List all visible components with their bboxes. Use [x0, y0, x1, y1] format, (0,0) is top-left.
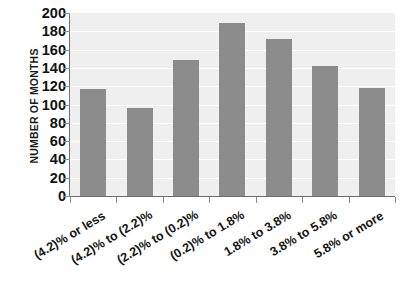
bar-slot: [70, 13, 116, 196]
y-tick-mark: [64, 123, 70, 124]
y-tick-mark: [64, 105, 70, 106]
x-axis-tick-labels: (4.2)% or less(4.2)% to (2.2)%(2.2)% to …: [0, 205, 404, 296]
bars-layer: [70, 13, 395, 196]
y-tick-label: 200: [24, 6, 66, 21]
bar[interactable]: [219, 23, 245, 196]
y-tick-mark: [64, 68, 70, 69]
bar[interactable]: [80, 89, 106, 196]
bar[interactable]: [173, 60, 199, 196]
y-tick-mark: [64, 196, 70, 197]
y-tick-mark: [64, 13, 70, 14]
x-tick-mark: [256, 197, 257, 203]
bar-slot: [116, 13, 162, 196]
bar-slot: [163, 13, 209, 196]
x-tick-mark: [116, 197, 117, 203]
x-tick-mark: [395, 197, 396, 203]
y-tick-mark: [64, 86, 70, 87]
y-tick-label: 80: [24, 116, 66, 131]
bar-slot: [256, 13, 302, 196]
y-tick-label: 160: [24, 42, 66, 57]
bar[interactable]: [359, 88, 385, 196]
bar[interactable]: [312, 66, 338, 196]
bar[interactable]: [266, 39, 292, 196]
y-tick-label: 140: [24, 61, 66, 76]
y-tick-mark: [64, 141, 70, 142]
x-tick-mark: [163, 197, 164, 203]
y-axis-tick-labels: 020406080100120140160180200: [24, 13, 66, 196]
plot-area: [70, 13, 395, 196]
y-tick-label: 0: [24, 189, 66, 204]
bar-slot: [302, 13, 348, 196]
bar-slot: [209, 13, 255, 196]
x-tick-mark: [302, 197, 303, 203]
x-tick-mark: [70, 197, 71, 203]
y-tick-label: 60: [24, 134, 66, 149]
y-tick-mark: [64, 31, 70, 32]
bar[interactable]: [127, 108, 153, 196]
y-tick-label: 180: [24, 24, 66, 39]
bar-slot: [349, 13, 395, 196]
y-tick-label: 20: [24, 170, 66, 185]
y-tick-mark: [64, 178, 70, 179]
y-tick-label: 120: [24, 79, 66, 94]
y-tick-mark: [64, 50, 70, 51]
y-tick-label: 40: [24, 152, 66, 167]
x-tick-mark: [209, 197, 210, 203]
y-tick-mark: [64, 159, 70, 160]
x-tick-mark: [349, 197, 350, 203]
bar-chart: NUMBER OF MONTHS 02040608010012014016018…: [0, 0, 404, 296]
x-axis-line: [69, 196, 395, 197]
y-tick-label: 100: [24, 97, 66, 112]
